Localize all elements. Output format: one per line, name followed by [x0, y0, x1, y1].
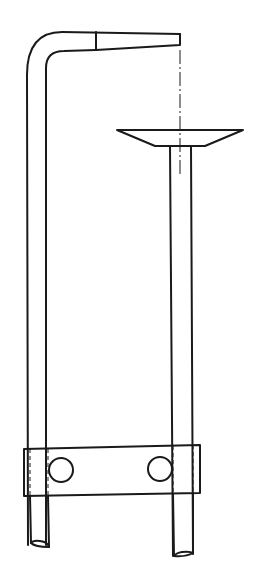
technical-drawing [0, 0, 256, 582]
rod-ends [30, 493, 193, 556]
bolt-hole-left [49, 458, 73, 482]
clamp-block [24, 445, 200, 496]
bolt-hole-right [148, 457, 172, 481]
